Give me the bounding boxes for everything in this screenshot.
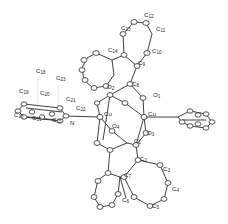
atom-label-c14: C14 xyxy=(108,46,118,54)
atom-label-c4: C4 xyxy=(172,185,179,193)
atom-label-c10: C10 xyxy=(152,47,162,55)
atom-label-c5: C5 xyxy=(152,202,159,210)
atom-label-c21: C21 xyxy=(66,95,76,103)
atom-label-c12: C12 xyxy=(144,11,154,19)
metal-label-cu-1: Cu xyxy=(104,110,112,117)
atoms xyxy=(15,20,215,210)
atom-label-c23: C23 xyxy=(56,74,66,82)
atom-label-c6: C6 xyxy=(122,196,129,204)
atom-label-o2: O2 xyxy=(107,83,115,91)
atom-label-c11: C11 xyxy=(156,25,166,33)
atom-label-n: N xyxy=(70,119,74,126)
atom-label-c15: C15 xyxy=(52,116,62,124)
atom-label-c2: C2 xyxy=(140,155,147,163)
atom-label-c18: C18 xyxy=(36,67,46,75)
atom-label-c20: C20 xyxy=(40,89,50,97)
atom-label-c19: C19 xyxy=(19,87,29,95)
atom-label-c3: C3 xyxy=(163,165,170,173)
atom-label-o1: O1 xyxy=(153,91,161,99)
atom-label-o3: O3 xyxy=(147,129,155,137)
structure-drawing: C12C13C11C14C10C9C18C23O2C8C19C20O1C21C2… xyxy=(0,0,228,224)
atom-label-c22: C22 xyxy=(76,104,86,112)
molecular-structure-diagram: C12C13C11C14C10C9C18C23O2C8C19C20O1C21C2… xyxy=(0,0,228,224)
atom-label-c13: C13 xyxy=(121,24,131,32)
metal-label-cu-2: Cu xyxy=(148,110,156,117)
